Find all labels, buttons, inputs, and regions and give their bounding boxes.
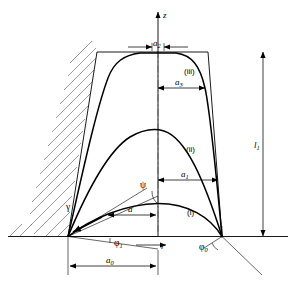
label-r-axis: r [161, 241, 165, 251]
label-curve-iii: (iii) [184, 67, 195, 76]
figure-container: a2 a3 a1 a γ ψ [0, 0, 296, 287]
label-a3: a3 [175, 77, 184, 88]
label-phi0: φ0 [199, 242, 208, 253]
phi1-angle-group [68, 237, 158, 250]
label-gamma: γ [65, 202, 70, 212]
meniscus-diagram: a2 a3 a1 a γ ψ [0, 0, 296, 287]
label-a1: a1 [181, 169, 189, 180]
phi0-angle-group [204, 226, 262, 275]
label-curve-i: (i) [187, 208, 194, 217]
label-curve-ii: (ii) [186, 145, 195, 154]
label-l1: l1 [254, 140, 260, 151]
dimension-a0 [68, 238, 158, 275]
label-phi1: φ1 [114, 238, 123, 249]
profile-curve-i [68, 204, 222, 237]
label-psi: ψ [140, 180, 146, 190]
profile-curve-iii [68, 53, 222, 237]
label-a0: a0 [106, 255, 115, 266]
label-z-axis: z [162, 10, 167, 20]
label-a2: a2 [153, 38, 162, 49]
left-wall [68, 52, 97, 237]
